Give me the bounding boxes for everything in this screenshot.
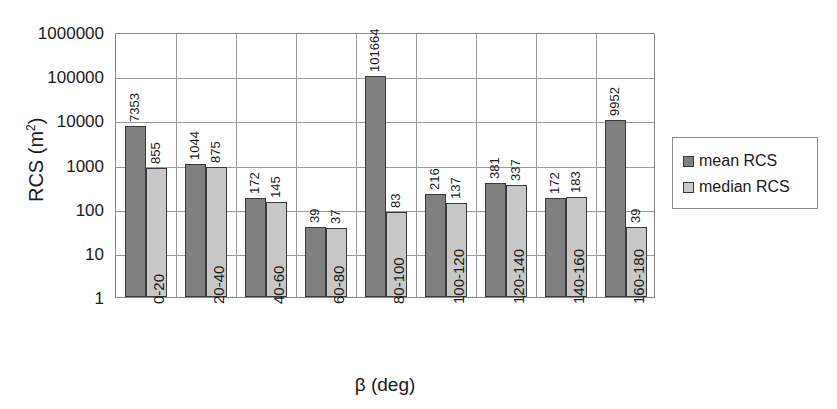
- legend-label-median: median RCS: [699, 179, 790, 195]
- y-axis-tick-label: 100: [0, 202, 110, 219]
- x-axis-tick-label: 100-120: [451, 249, 466, 304]
- bar-mean: [425, 194, 446, 297]
- bar-mean: [185, 164, 206, 297]
- y-axis-tick-label: 100000: [0, 69, 110, 86]
- bar-mean: [125, 126, 146, 297]
- bar-value-label: 337: [509, 160, 522, 182]
- y-axis-ticks: 1000000100000100001000100101: [0, 0, 110, 409]
- chart-legend: mean RCS median RCS: [672, 137, 818, 209]
- vertical-gridline: [476, 34, 477, 297]
- vertical-gridline: [296, 34, 297, 297]
- x-axis-tick-label: 40-60: [271, 266, 286, 304]
- bar-mean: [485, 183, 506, 297]
- x-axis-tick-label: 160-180: [631, 249, 646, 304]
- x-axis-tick-label: 60-80: [331, 266, 346, 304]
- legend-swatch-median-icon: [683, 182, 694, 193]
- bar-value-label: 7353: [128, 93, 141, 122]
- vertical-gridline: [416, 34, 417, 297]
- vertical-gridline: [356, 34, 357, 297]
- vertical-gridline: [236, 34, 237, 297]
- y-axis-tick-label: 10: [0, 246, 110, 263]
- bar-mean: [545, 198, 566, 297]
- legend-item-mean: mean RCS: [683, 153, 809, 169]
- bar-mean: [605, 120, 626, 297]
- bar-value-label: 39: [629, 208, 642, 222]
- vertical-gridline: [596, 34, 597, 297]
- bar-value-label: 216: [428, 168, 441, 190]
- y-axis-tick-label: 10000: [0, 113, 110, 130]
- bar-value-label: 875: [209, 141, 222, 163]
- y-axis-tick-label: 1: [0, 290, 110, 307]
- bar-chart: RCS (m2) 1000000100000100001000100101 73…: [0, 0, 837, 409]
- bar-value-label: 9952: [608, 88, 621, 117]
- vertical-gridline: [536, 34, 537, 297]
- bar-value-label: 83: [389, 194, 402, 208]
- bar-value-label: 39: [308, 208, 321, 222]
- y-axis-tick-label: 1000000: [0, 25, 110, 42]
- bar-value-label: 145: [269, 176, 282, 198]
- bar-mean: [365, 76, 386, 297]
- x-axis-ticks: 0-2020-4040-6060-8080-100100-120120-1401…: [115, 300, 655, 370]
- x-axis-title: β (deg): [115, 374, 655, 396]
- bar-value-label: 137: [449, 177, 462, 199]
- x-axis-tick-label: 80-100: [391, 257, 406, 304]
- x-axis-tick-label: 20-40: [211, 266, 226, 304]
- legend-swatch-mean-icon: [683, 156, 694, 167]
- x-axis-tick-label: 120-140: [511, 249, 526, 304]
- legend-item-median: median RCS: [683, 179, 809, 195]
- bar-value-label: 1044: [188, 131, 201, 160]
- x-axis-tick-label: 0-20: [151, 274, 166, 304]
- bar-mean: [305, 227, 326, 297]
- bar-value-label: 855: [149, 142, 162, 164]
- bar-value-label: 101664: [368, 28, 381, 71]
- bar-value-label: 183: [569, 171, 582, 193]
- bar-value-label: 381: [488, 157, 501, 179]
- bar-mean: [245, 198, 266, 297]
- x-axis-tick-label: 140-160: [571, 249, 586, 304]
- legend-label-mean: mean RCS: [699, 153, 777, 169]
- bar-value-label: 172: [248, 173, 261, 195]
- vertical-gridline: [176, 34, 177, 297]
- y-axis-tick-label: 1000: [0, 158, 110, 175]
- bar-value-label: 37: [329, 209, 342, 223]
- bar-value-label: 172: [548, 173, 561, 195]
